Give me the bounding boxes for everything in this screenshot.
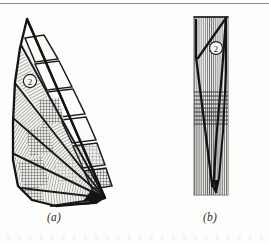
panel-a-marker-text: 2 [28, 77, 33, 87]
top-divider-rule [0, 3, 269, 4]
panel-a-marker-2: 2 [23, 74, 36, 87]
panel-a-caption: (a) [47, 211, 61, 223]
figure-panel-b: 2 [186, 12, 242, 202]
figure-panel-a: 2 [4, 10, 130, 208]
figure-plate: 2 [0, 0, 269, 244]
bottom-text-bleed [6, 235, 264, 241]
panel-b-marker-text: 2 [214, 44, 218, 54]
panel-b-caption: (b) [203, 211, 217, 223]
panel-b-marker-2: 2 [210, 42, 223, 55]
